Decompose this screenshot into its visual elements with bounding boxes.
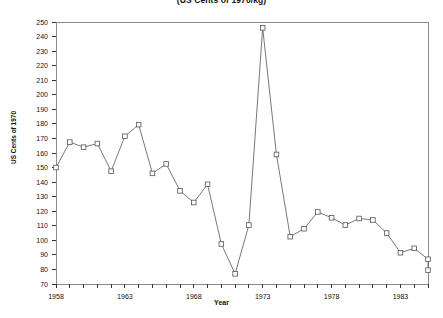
svg-text:1968: 1968 [186, 293, 202, 300]
x-axis-ticks: 195819631968197319781983 [48, 284, 428, 300]
svg-text:1963: 1963 [117, 293, 133, 300]
svg-text:180: 180 [36, 120, 48, 127]
series-line [56, 28, 428, 274]
svg-text:170: 170 [36, 135, 48, 142]
svg-text:160: 160 [36, 150, 48, 157]
svg-text:190: 190 [36, 106, 48, 113]
plot-frame [56, 22, 428, 284]
svg-text:120: 120 [36, 208, 48, 215]
series-markers [54, 26, 431, 277]
svg-text:250: 250 [36, 19, 48, 26]
y-axis-ticks: 7080901001101201301401501601701801902002… [36, 19, 56, 288]
chart-container: (US Cents of 1970/kg) US Cents of 1970 Y… [0, 0, 443, 318]
svg-text:90: 90 [40, 251, 48, 258]
svg-text:1973: 1973 [255, 293, 271, 300]
svg-text:100: 100 [36, 237, 48, 244]
svg-text:80: 80 [40, 266, 48, 273]
svg-text:130: 130 [36, 193, 48, 200]
plot-area: 7080901001101201301401501601701801902002… [0, 0, 443, 318]
svg-text:140: 140 [36, 179, 48, 186]
svg-text:200: 200 [36, 91, 48, 98]
svg-text:150: 150 [36, 164, 48, 171]
svg-text:230: 230 [36, 48, 48, 55]
svg-text:70: 70 [40, 281, 48, 288]
svg-text:210: 210 [36, 77, 48, 84]
svg-text:1983: 1983 [393, 293, 409, 300]
svg-text:220: 220 [36, 62, 48, 69]
svg-text:1978: 1978 [324, 293, 340, 300]
svg-text:240: 240 [36, 33, 48, 40]
svg-text:110: 110 [37, 222, 48, 229]
svg-text:1958: 1958 [48, 293, 64, 300]
